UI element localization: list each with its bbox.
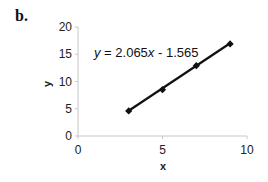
x-tick-label: 0 [75,143,82,157]
scatter-chart: 051015200510 y = 2.065x - 1.565 x y [0,0,268,182]
trendline-equation: y = 2.065x - 1.565 [93,45,198,60]
x-tick-label: 5 [159,143,166,157]
y-tick-label: 20 [59,20,73,34]
y-tick-label: 10 [59,75,73,89]
y-tick-label: 5 [65,102,72,116]
y-tick-label: 0 [65,129,72,143]
x-axis-title: x [160,160,167,172]
x-tick-label: 10 [240,143,254,157]
axes [75,27,247,139]
data-point-marker [227,40,234,47]
y-axis-title: y [41,80,53,87]
y-tick-label: 15 [59,47,73,61]
